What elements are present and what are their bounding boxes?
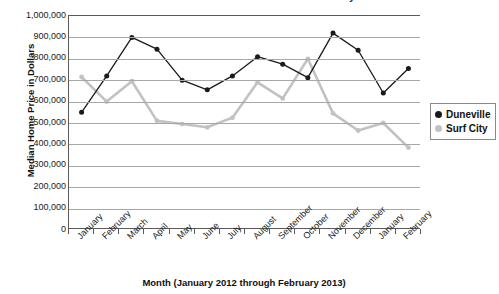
y-axis-tick-label: 0 [8, 225, 66, 234]
gridline [69, 80, 420, 81]
y-axis-tick-labels: 0100,000200,000300,000400,000500,000600,… [4, 0, 66, 294]
y-axis-tick-label: 600,000 [8, 96, 66, 105]
data-point [230, 115, 235, 120]
x-axis-title: Month (January 2012 through February 201… [68, 277, 420, 288]
data-point [79, 110, 84, 115]
data-point [79, 75, 84, 80]
data-point [331, 31, 336, 36]
y-axis-tick-label: 500,000 [8, 118, 66, 127]
data-point [381, 91, 386, 96]
legend-marker-icon [435, 125, 442, 132]
y-axis-tick-label: 100,000 [8, 203, 66, 212]
y-axis-tick-label: 900,000 [8, 32, 66, 41]
data-point [406, 145, 411, 150]
gridline [69, 209, 420, 210]
data-point [280, 96, 285, 101]
gridline [69, 59, 420, 60]
y-axis-tick-label: 400,000 [8, 139, 66, 148]
y-axis-tick-label: 700,000 [8, 75, 66, 84]
legend-label: Duneville [446, 109, 490, 120]
y-axis-tick-label: 1,000,000 [8, 11, 66, 20]
gridline [69, 187, 420, 188]
y-axis-tick-label: 800,000 [8, 53, 66, 62]
plot-area [68, 15, 420, 229]
y-axis-tick-label: 200,000 [8, 182, 66, 191]
chart-legend: DunevilleSurf City [430, 103, 496, 140]
data-point [406, 66, 411, 71]
data-point [104, 73, 109, 78]
data-point [356, 128, 361, 133]
legend-marker-icon [435, 111, 442, 118]
gridline [69, 166, 420, 167]
legend-item[interactable]: Surf City [435, 121, 490, 135]
data-point [205, 87, 210, 92]
data-point [205, 125, 210, 130]
median-home-price-line-chart: Median Home Prices in Duneville and Surf… [0, 0, 499, 294]
x-axis-tick-labels: JanuaryFebruaryMarchAprilMayJuneJulyAugu… [68, 234, 420, 276]
data-point [356, 48, 361, 53]
gridline [69, 123, 420, 124]
legend-item[interactable]: Duneville [435, 107, 490, 121]
x-axis-tick-mark [420, 229, 421, 234]
series-surf-city [79, 56, 411, 150]
gridline [69, 102, 420, 103]
data-point [280, 62, 285, 67]
y-axis-tick-label: 300,000 [8, 160, 66, 169]
legend-label: Surf City [446, 123, 488, 134]
data-point [155, 47, 160, 52]
gridline [69, 37, 420, 38]
chart-title: Median Home Prices in Duneville and Surf… [68, 0, 420, 2]
data-point [331, 111, 336, 116]
series-line [82, 59, 409, 148]
gridline [69, 144, 420, 145]
data-point [230, 73, 235, 78]
